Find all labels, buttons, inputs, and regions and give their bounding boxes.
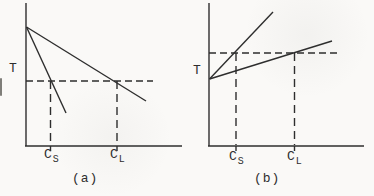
panel-b-cl-subscript: L <box>296 156 302 167</box>
panel-b-caption: (b) <box>254 172 280 185</box>
panel-a-y-axis-label: T <box>9 62 17 75</box>
panel-a-cs-subscript: S <box>53 154 59 165</box>
panel-b-plot <box>208 3 364 151</box>
panel-a-caption: (a) <box>72 172 98 185</box>
panel-a-cs-label: CS <box>44 148 58 161</box>
panel-a-shallow-line <box>27 27 147 101</box>
panel-a-cl-subscript: L <box>119 154 125 165</box>
panel-b-cl-label: CL <box>287 150 301 163</box>
panel-a-cl-label: CL <box>110 148 124 161</box>
panel-a-plot <box>25 3 182 151</box>
panel-b-y-axis-label: T <box>193 64 201 77</box>
panel-b-cl-base: C <box>287 149 295 164</box>
panel-b-cs-label: CS <box>229 150 243 163</box>
panel-b-cs-base: C <box>229 149 237 164</box>
figure-canvas: T CS CL (a) T CS CL (b) <box>0 0 374 196</box>
diagram-lines <box>0 0 374 196</box>
panel-b-cs-subscript: S <box>238 156 244 167</box>
panel-a-cl-base: C <box>110 147 118 162</box>
panel-a-cs-base: C <box>44 147 52 162</box>
